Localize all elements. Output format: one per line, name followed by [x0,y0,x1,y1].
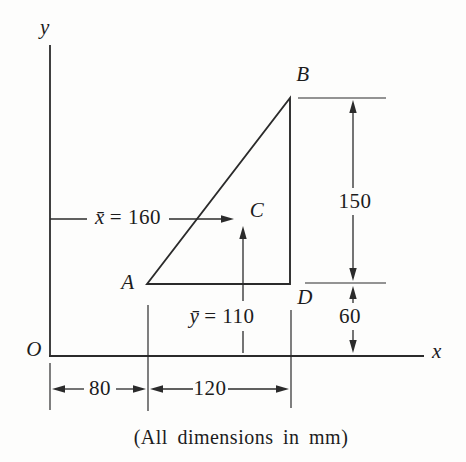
origin-label: O [26,337,42,362]
ybar-leader-arrow [239,226,246,353]
dimension-80-label: 80 [89,376,111,401]
xbar-symbol: x̄ [95,205,105,229]
dim80-right-arrowhead-icon [133,385,146,392]
dim150-bottom-arrowhead-icon [349,268,356,281]
x-axis-label: x [432,339,442,364]
diagram-linework [0,0,466,462]
dim120-left-arrowhead-icon [150,385,163,392]
centroid-label-C: C [250,198,265,223]
ybar-arrowhead-icon [239,226,246,239]
centroid-diagram: y x O A B C D x̄= 160 ȳ= 110 150 60 80 1… [0,0,466,462]
dim60-bottom-arrowhead-icon [349,340,356,353]
dim60-top-arrowhead-icon [349,286,356,299]
dimension-120-label: 120 [194,376,227,401]
figure-caption: (All dimensions in mm) [134,426,349,449]
ybar-symbol: ȳ [189,304,199,328]
dim120-right-arrowhead-icon [276,385,289,392]
triangle-outline [147,98,290,284]
ybar-value-label: ȳ= 110 [189,304,254,329]
dimension-60-label: 60 [339,304,361,329]
y-axis-label: y [40,15,50,40]
vertex-label-A: A [121,270,134,295]
dim80-left-arrowhead-icon [52,385,65,392]
vertex-label-D: D [297,285,313,310]
xbar-arrowhead-icon [221,215,234,222]
ybar-equation: = 110 [204,304,254,328]
dimension-150-label: 150 [339,189,372,214]
xbar-value-label: x̄= 160 [95,205,161,230]
vertex-label-B: B [296,62,309,87]
xbar-equation: = 160 [110,205,161,229]
dim150-top-arrowhead-icon [349,100,356,113]
